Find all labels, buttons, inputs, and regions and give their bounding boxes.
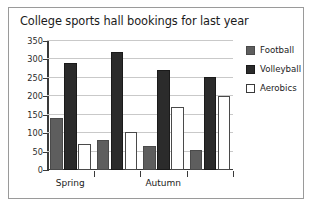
bar-aerobics-group-2 (125, 132, 138, 170)
y-tick-label-100: 100 (27, 128, 43, 138)
y-tick-mark-0 (43, 170, 47, 171)
y-tick-label-150: 150 (27, 110, 43, 120)
y-axis-tick-labels: 050100150200250300350 (17, 41, 43, 171)
y-tick-mark-100 (43, 133, 47, 134)
legend-swatch-aerobics-icon (246, 84, 255, 93)
legend-item-football[interactable]: Football (246, 41, 308, 59)
bar-aerobics-group-1 (78, 144, 91, 170)
bar-aerobics-group-4 (218, 96, 231, 170)
plot-area (47, 41, 233, 170)
y-tick-label-50: 50 (33, 147, 43, 157)
x-axis-label-spring: Spring (56, 178, 85, 188)
chart-title: College sports hall bookings for last ye… (20, 14, 249, 28)
gridline-300 (47, 58, 233, 59)
legend-label-aerobics: Aerobics (260, 83, 297, 93)
legend-swatch-football-icon (246, 46, 255, 55)
chart-legend: Football Volleyball Aerobics (246, 41, 308, 98)
y-tick-mark-50 (43, 152, 47, 153)
y-tick-label-250: 250 (27, 73, 43, 83)
legend-swatch-volleyball-icon (246, 65, 255, 74)
x-axis-separator-end (233, 171, 234, 177)
legend-label-football: Football (260, 45, 294, 55)
bar-football-group-3 (143, 146, 156, 170)
bar-football-group-1 (50, 118, 63, 170)
y-tick-label-350: 350 (27, 36, 43, 46)
y-tick-mark-300 (43, 59, 47, 60)
gridline-350 (47, 40, 233, 41)
bar-football-group-4 (190, 150, 203, 170)
legend-label-volleyball: Volleyball (260, 64, 301, 74)
bar-volleyball-group-4 (204, 77, 217, 170)
y-tick-mark-150 (43, 115, 47, 116)
chart-frame: College sports hall bookings for last ye… (8, 7, 304, 199)
x-axis-separator-2 (140, 171, 141, 177)
y-tick-mark-250 (43, 78, 47, 79)
x-axis-separator-1 (94, 171, 95, 177)
x-axis-label-autumn: Autumn (145, 178, 181, 188)
y-tick-label-300: 300 (27, 54, 43, 64)
bar-aerobics-group-3 (171, 107, 184, 170)
x-axis: SpringAutumn (47, 171, 234, 197)
legend-item-aerobics[interactable]: Aerobics (246, 79, 308, 97)
bar-volleyball-group-1 (64, 63, 77, 170)
y-tick-mark-200 (43, 96, 47, 97)
bar-football-group-2 (97, 140, 110, 170)
y-tick-label-200: 200 (27, 91, 43, 101)
bar-volleyball-group-3 (157, 70, 170, 170)
x-axis-separator-3 (187, 171, 188, 177)
legend-item-volleyball[interactable]: Volleyball (246, 60, 308, 78)
y-tick-mark-350 (43, 41, 47, 42)
bar-volleyball-group-2 (111, 52, 124, 170)
